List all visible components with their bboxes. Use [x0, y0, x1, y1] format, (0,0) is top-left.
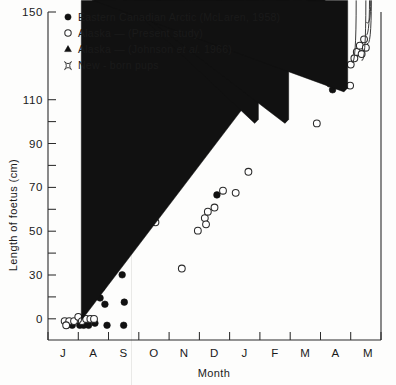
y-tick-label: 50: [29, 225, 43, 237]
data-point-filled-circle: [121, 299, 128, 306]
legend-label: Eastern Canadian Arctic (McLaren, 1958): [78, 11, 280, 23]
legend-entry-alaska-present-study: Alaska — (Present study): [65, 27, 203, 39]
data-point-filled-circle: [102, 301, 109, 308]
data-point-open-circle: [91, 316, 98, 323]
x-tick-label: F: [271, 347, 279, 359]
y-axis-major-ticks: [48, 12, 56, 319]
x-axis-ticks: [48, 332, 381, 340]
data-point-filled-circle: [85, 322, 92, 329]
data-point-open-circle: [63, 322, 70, 329]
data-point-open-circle: [201, 215, 208, 222]
figure-container: 150 110 90 70 50 30 0 Length of foetus (…: [0, 0, 396, 385]
data-point-filled-circle: [214, 192, 221, 199]
data-point-four-point-star: [366, 0, 370, 23]
data-point-open-circle: [232, 189, 239, 196]
data-point-filled-circle: [119, 272, 126, 279]
x-tick-label: J: [60, 347, 66, 359]
data-point-open-circle: [220, 187, 227, 194]
legend-label: Alaska — (Johnson et al. 1966): [78, 43, 232, 55]
data-point-open-circle: [361, 36, 368, 43]
legend-entry-eastern-canadian-arctic: Eastern Canadian Arctic (McLaren, 1958): [65, 11, 280, 23]
x-tick-label: O: [149, 347, 159, 359]
x-tick-label: N: [180, 347, 189, 359]
data-point-open-circle: [313, 120, 320, 127]
x-tick-label: M: [363, 347, 373, 359]
y-tick-label: 110: [23, 94, 43, 106]
y-tick-label: 150: [22, 6, 43, 18]
x-tick-label: A: [89, 347, 97, 359]
x-axis-tick-labels: J A S O N D J F M A M: [60, 347, 373, 359]
legend-entry-alaska-johnson: Alaska — (Johnson et al. 1966): [65, 43, 232, 55]
legend-label-post: 1966): [201, 43, 232, 55]
data-point-open-circle: [211, 204, 218, 211]
x-tick-label: S: [119, 347, 127, 359]
y-tick-label: 0: [36, 313, 43, 325]
data-point-open-circle: [204, 208, 211, 215]
legend-entry-new-born-pups: New - born pups: [65, 59, 159, 71]
y-tick-label: 30: [29, 269, 43, 281]
open-circle-icon: [65, 30, 71, 36]
y-tick-label: 70: [29, 181, 43, 193]
x-tick-label: M: [300, 347, 310, 359]
data-point-filled-circle: [120, 322, 127, 329]
legend-label: New - born pups: [78, 59, 159, 71]
data-point-filled-circle: [104, 322, 111, 329]
data-point-open-circle: [362, 44, 369, 51]
x-axis-title: Month: [198, 367, 231, 379]
legend-label-italic: et al.: [176, 43, 200, 55]
data-point-open-circle: [245, 168, 252, 175]
y-axis-title: Length of foetus (cm): [7, 159, 19, 271]
legend-label: Alaska — (Present study): [78, 27, 203, 39]
x-tick-label: A: [331, 347, 339, 359]
scatter-plot: 150 110 90 70 50 30 0 Length of foetus (…: [0, 0, 396, 385]
y-tick-label: 90: [29, 138, 43, 150]
x-tick-label: J: [242, 347, 248, 359]
data-point-open-circle: [203, 221, 210, 228]
legend-label-pre: Alaska — (Johnson: [78, 43, 176, 55]
data-point-open-circle: [194, 227, 201, 234]
y-axis-tick-labels: 150 110 90 70 50 30 0: [22, 6, 43, 325]
four-point-star-icon: [65, 62, 72, 70]
data-point-open-circle: [178, 265, 185, 272]
x-tick-label: D: [210, 347, 219, 359]
filled-circle-icon: [65, 14, 71, 20]
filled-triangle-icon: [65, 46, 72, 52]
